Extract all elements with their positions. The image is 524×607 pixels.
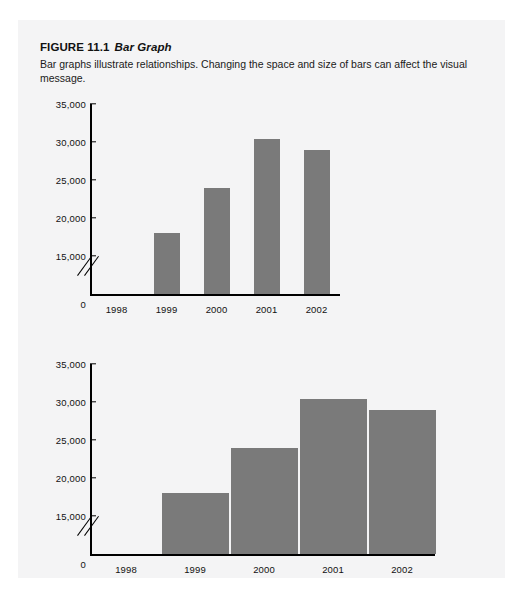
x-axis-tick-label: 2002: [292, 304, 342, 315]
bar: [369, 410, 436, 554]
x-axis-tick-label: 2000: [192, 304, 242, 315]
bar: [162, 493, 229, 554]
x-axis-tick-label: 1999: [161, 564, 230, 575]
y-axis-tick-label: 30,000: [56, 137, 86, 148]
x-axis-tick-label: 2001: [242, 304, 292, 315]
bar-slot: [368, 364, 437, 554]
y-axis-labels: 35,00030,00025,00020,00015,0000: [40, 358, 86, 598]
x-axis-tick-label: 2000: [230, 564, 299, 575]
x-axis-tick-label: 1998: [92, 304, 142, 315]
bar: [304, 150, 330, 294]
x-axis-labels: 19981999200020012002: [92, 304, 342, 315]
top-bar-chart: 35,00030,00025,00020,00015,0000199819992…: [40, 98, 480, 338]
figure-name: Bar Graph: [115, 41, 172, 53]
y-axis-tick-label: 0: [81, 299, 86, 310]
bar: [154, 233, 180, 294]
bar-slot: [92, 104, 142, 294]
bar-slot: [230, 364, 299, 554]
x-axis-line: [90, 554, 435, 556]
y-axis-tick-label: 25,000: [56, 435, 86, 446]
bar-slot: [192, 104, 242, 294]
y-axis-labels: 35,00030,00025,00020,00015,0000: [40, 98, 86, 338]
bar: [300, 399, 367, 554]
y-axis-tick-label: 25,000: [56, 175, 86, 186]
bar-slot: [142, 104, 192, 294]
y-axis-tick-label: 20,000: [56, 473, 86, 484]
x-axis-labels: 19981999200020012002: [92, 564, 437, 575]
x-axis-tick-label: 1999: [142, 304, 192, 315]
x-axis-tick-label: 2002: [368, 564, 437, 575]
bar-slot: [292, 104, 342, 294]
bar: [231, 448, 298, 554]
plot-area: [92, 104, 342, 294]
bar: [204, 188, 230, 294]
y-axis-tick-label: 30,000: [56, 397, 86, 408]
y-axis-tick-label: 15,000: [56, 251, 86, 262]
figure-title: FIGURE 11.1Bar Graph: [40, 40, 468, 55]
x-axis-line: [90, 294, 340, 296]
y-axis-tick-label: 0: [81, 559, 86, 570]
y-axis-tick-label: 35,000: [56, 99, 86, 110]
top-chart-inner: 35,00030,00025,00020,00015,0000199819992…: [40, 98, 480, 338]
bar: [254, 139, 280, 294]
bar-slot: [242, 104, 292, 294]
figure-caption: FIGURE 11.1Bar Graph Bar graphs illustra…: [40, 40, 468, 85]
figure-description: Bar graphs illustrate relationships. Cha…: [40, 58, 468, 85]
bar-slot: [92, 364, 161, 554]
bar-slot: [161, 364, 230, 554]
figure-number: FIGURE 11.1: [40, 41, 110, 53]
figure-panel: FIGURE 11.1Bar Graph Bar graphs illustra…: [18, 20, 505, 578]
bottom-chart-inner: 35,00030,00025,00020,00015,0000199819992…: [40, 358, 480, 598]
y-axis-tick-label: 15,000: [56, 511, 86, 522]
y-axis-tick-label: 35,000: [56, 359, 86, 370]
x-axis-tick-label: 2001: [299, 564, 368, 575]
plot-area: [92, 364, 437, 554]
x-axis-tick-label: 1998: [92, 564, 161, 575]
y-axis-tick-label: 20,000: [56, 213, 86, 224]
bottom-bar-chart: 35,00030,00025,00020,00015,0000199819992…: [40, 358, 480, 598]
bar-slot: [299, 364, 368, 554]
